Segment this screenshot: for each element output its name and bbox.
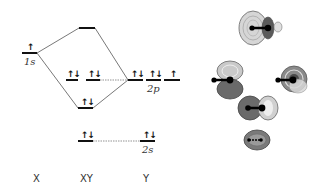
- antibonding-orbital-plot: [239, 11, 282, 45]
- y-2p-3-electrons: ↑: [170, 70, 177, 79]
- mo-diagram: ↑ 1s ↑↓ ↑↓ ↑↓ ↑↓ ↑↓ ↑↓ 2p ↑ ↑↓ 2s X XY Y: [0, 0, 328, 196]
- y-2p-level-1: [128, 79, 143, 81]
- y-2s-label: 2s: [142, 144, 154, 155]
- nonbonding-orbital-plot-2: [275, 66, 307, 93]
- xy-2s-level: [78, 140, 93, 142]
- y-2s-electrons: ↑↓: [143, 131, 156, 140]
- x-1s-level: [22, 52, 37, 54]
- xy-bonding-level: [78, 107, 93, 109]
- xy-antibonding-level: [79, 27, 95, 29]
- column-label-x: X: [33, 173, 40, 184]
- y-2p-label: 2p: [147, 83, 160, 94]
- xy-bonding-electrons: ↑↓: [81, 98, 94, 107]
- connector-lines: [0, 0, 328, 196]
- xy-nonbonding-2-electrons: ↑↓: [88, 70, 101, 79]
- nonbonding-orbital-plot-1: [211, 61, 243, 99]
- xy-nonbonding-level-2: [86, 79, 100, 81]
- bonding-orbital-plot: [238, 96, 278, 120]
- xy-2s-electrons: ↑↓: [81, 131, 94, 140]
- y-2p-level-2: [146, 79, 161, 81]
- column-label-y: Y: [143, 173, 149, 184]
- column-label-xy: XY: [80, 173, 93, 184]
- 2s-orbital-plot: [244, 130, 270, 150]
- x-1s-label: 1s: [24, 56, 36, 67]
- y-2p-2-electrons: ↑↓: [149, 70, 162, 79]
- y-2p-1-electrons: ↑↓: [131, 70, 144, 79]
- xy-nonbonding-1-electrons: ↑↓: [67, 70, 80, 79]
- xy-nonbonding-level-1: [66, 79, 78, 81]
- x-1s-electrons: ↑: [27, 43, 34, 52]
- y-2s-level: [140, 140, 155, 142]
- y-2p-level-3: [164, 79, 180, 81]
